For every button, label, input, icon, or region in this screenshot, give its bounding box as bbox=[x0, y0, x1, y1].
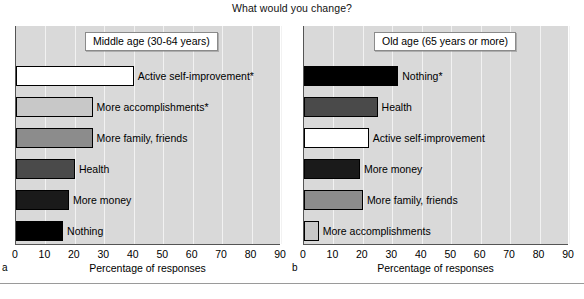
bar-row: Nothing* bbox=[304, 66, 569, 86]
x-tick-0: 0 bbox=[12, 248, 18, 260]
x-tick-60: 60 bbox=[186, 248, 198, 260]
figure-root: What would you change? Active self-impro… bbox=[0, 0, 584, 299]
x-axis-title-a: Percentage of responses bbox=[15, 262, 280, 274]
footer-rule bbox=[0, 283, 584, 284]
plot-area-b: Nothing*HealthActive self-improvementMor… bbox=[303, 26, 568, 245]
bar-label: Nothing* bbox=[398, 70, 442, 82]
x-tick-70: 70 bbox=[503, 248, 515, 260]
panel-caption-b: Old age (65 years or more) bbox=[374, 32, 516, 51]
bar[interactable] bbox=[304, 190, 363, 210]
bar-row: More money bbox=[16, 190, 281, 210]
bar-label: Health bbox=[378, 101, 412, 113]
bar-label: More family, friends bbox=[363, 194, 458, 206]
bar-row: More accomplishments* bbox=[16, 97, 281, 117]
chart-panel-a: Active self-improvement*More accomplishm… bbox=[0, 26, 292, 254]
bar-row: More accomplishments bbox=[304, 221, 569, 241]
bar[interactable] bbox=[304, 221, 319, 241]
bar[interactable] bbox=[16, 221, 63, 241]
chart-panel-b: Nothing*HealthActive self-improvementMor… bbox=[292, 26, 584, 254]
panel-letter-a: a bbox=[2, 262, 8, 273]
x-axis-title-b: Percentage of responses bbox=[303, 262, 568, 274]
figure-title: What would you change? bbox=[0, 2, 584, 14]
x-tick-80: 80 bbox=[245, 248, 257, 260]
bar-row: Active self-improvement* bbox=[16, 66, 281, 86]
x-tick-40: 40 bbox=[127, 248, 139, 260]
x-axis-b: Percentage of responses 0102030405060708… bbox=[303, 245, 568, 275]
plot-area-a: Active self-improvement*More accomplishm… bbox=[15, 26, 280, 245]
x-tick-60: 60 bbox=[474, 248, 486, 260]
bar-row: More money bbox=[304, 159, 569, 179]
x-tick-0: 0 bbox=[300, 248, 306, 260]
x-tick-40: 40 bbox=[415, 248, 427, 260]
x-axis-a: Percentage of responses 0102030405060708… bbox=[15, 245, 280, 275]
bar-label: Active self-improvement bbox=[369, 132, 485, 144]
bar-label: More money bbox=[360, 163, 422, 175]
bar[interactable] bbox=[304, 159, 360, 179]
gridline-90 bbox=[281, 26, 282, 244]
x-tick-30: 30 bbox=[97, 248, 109, 260]
bar[interactable] bbox=[304, 97, 378, 117]
panel-caption-a: Middle age (30-64 years) bbox=[85, 32, 218, 51]
gridline-90 bbox=[569, 26, 570, 244]
x-tick-90: 90 bbox=[562, 248, 574, 260]
bar-row: More family, friends bbox=[16, 128, 281, 148]
x-tick-20: 20 bbox=[68, 248, 80, 260]
x-tick-70: 70 bbox=[215, 248, 227, 260]
bar[interactable] bbox=[304, 66, 398, 86]
bar-label: Active self-improvement* bbox=[134, 70, 254, 82]
bar[interactable] bbox=[16, 97, 93, 117]
x-tick-10: 10 bbox=[39, 248, 51, 260]
bar-row: Active self-improvement bbox=[304, 128, 569, 148]
bar[interactable] bbox=[16, 66, 134, 86]
bar-label: More family, friends bbox=[93, 132, 188, 144]
panel-letter-b: b bbox=[292, 262, 298, 273]
x-tick-80: 80 bbox=[533, 248, 545, 260]
bar-label: More accomplishments bbox=[319, 225, 431, 237]
bar-row: Nothing bbox=[16, 221, 281, 241]
x-tick-50: 50 bbox=[444, 248, 456, 260]
bar-row: More family, friends bbox=[304, 190, 569, 210]
bar-label: More accomplishments* bbox=[93, 101, 209, 113]
bar[interactable] bbox=[304, 128, 369, 148]
bar[interactable] bbox=[16, 190, 69, 210]
x-tick-20: 20 bbox=[356, 248, 368, 260]
bar[interactable] bbox=[16, 159, 75, 179]
x-tick-90: 90 bbox=[274, 248, 286, 260]
bar-label: Nothing bbox=[63, 225, 103, 237]
bar-row: Health bbox=[16, 159, 281, 179]
bar[interactable] bbox=[16, 128, 93, 148]
bar-row: Health bbox=[304, 97, 569, 117]
bar-label: Health bbox=[75, 163, 109, 175]
x-tick-50: 50 bbox=[156, 248, 168, 260]
x-tick-10: 10 bbox=[327, 248, 339, 260]
bar-label: More money bbox=[69, 194, 131, 206]
x-tick-30: 30 bbox=[385, 248, 397, 260]
